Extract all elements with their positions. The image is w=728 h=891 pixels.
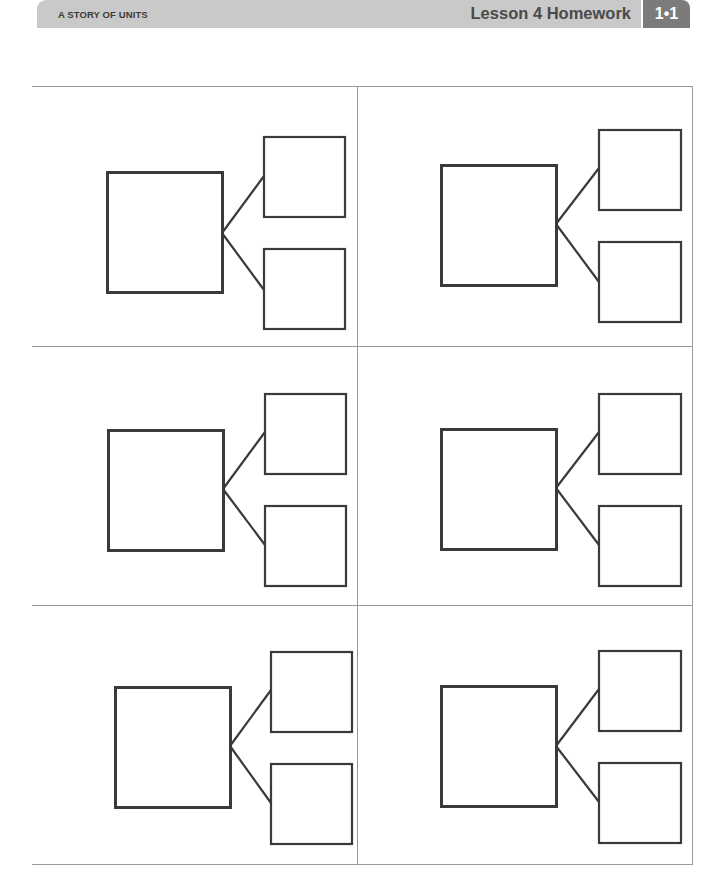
worksheet-grid [0,0,728,891]
bond-line-top [222,176,264,233]
whole-box[interactable] [442,430,557,550]
whole-box[interactable] [108,173,223,293]
whole-box[interactable] [442,687,557,807]
part-box-top[interactable] [271,652,352,732]
part-box-bottom[interactable] [599,242,681,322]
part-box-top[interactable] [599,394,681,474]
part-box-top[interactable] [599,651,681,731]
part-box-bottom[interactable] [271,764,352,844]
part-box-bottom[interactable] [599,763,681,843]
number-bond-5 [116,652,353,844]
bond-line-top [556,432,599,488]
bond-line-bottom [223,489,265,545]
bond-line-bottom [556,488,599,545]
bond-line-bottom [556,224,599,282]
bond-line-bottom [230,746,271,803]
part-box-top[interactable] [264,137,345,217]
part-box-bottom[interactable] [264,249,345,329]
part-box-top[interactable] [599,130,681,210]
bond-line-top [556,689,599,746]
whole-box[interactable] [109,431,224,551]
part-box-bottom[interactable] [265,506,346,586]
number-bond-6 [442,651,682,843]
bond-line-bottom [556,746,599,802]
number-bond-1 [108,137,346,329]
whole-box[interactable] [116,688,231,808]
part-box-top[interactable] [265,394,346,474]
whole-box[interactable] [442,166,557,286]
bond-line-top [223,432,265,489]
number-bond-3 [109,394,347,586]
bond-line-top [556,168,599,224]
part-box-bottom[interactable] [599,506,681,586]
bond-line-bottom [222,233,264,290]
number-bond-2 [442,130,682,322]
number-bond-4 [442,394,682,586]
bond-line-top [230,690,271,746]
